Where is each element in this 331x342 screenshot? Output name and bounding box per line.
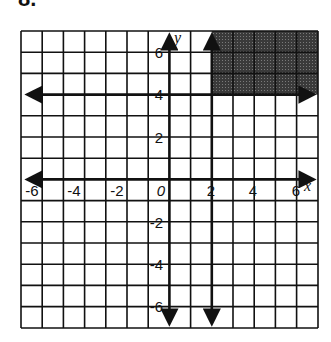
y-tick-label: 2	[155, 129, 163, 146]
coordinate-plane: y x -6 -4 -2 0 2 4 6 6 4 2 -2 -4 -6	[0, 0, 331, 342]
x-axis-label: x	[303, 177, 311, 194]
origin-label: 0	[157, 182, 166, 199]
y-tick-label: 6	[155, 44, 163, 61]
shaded-region	[212, 31, 318, 95]
x-tick-label: 2	[207, 182, 215, 199]
x-tick-label: 4	[249, 182, 257, 199]
y-tick-label: 4	[155, 86, 163, 103]
x-tick-label: -4	[67, 182, 80, 199]
x-tick-label: -6	[25, 182, 38, 199]
x-tick-label: -2	[110, 182, 123, 199]
y-tick-label: -2	[150, 214, 163, 231]
y-axis-label: y	[172, 29, 182, 47]
y-tick-label: -4	[150, 256, 163, 273]
y-tick-label: -6	[150, 298, 163, 315]
x-tick-label: 6	[292, 182, 300, 199]
